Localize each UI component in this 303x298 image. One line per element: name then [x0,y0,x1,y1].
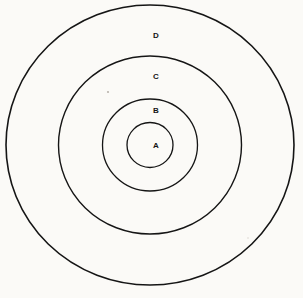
ring-label-d: D [153,31,159,40]
paper-speck [247,237,249,239]
paper-speck [107,91,109,93]
ring-label-c: C [153,72,159,81]
figure-canvas: D C B A [0,0,303,298]
paper-background [0,0,303,298]
concentric-circles-diagram: D C B A [0,0,303,298]
ring-label-a: A [153,141,159,150]
ring-label-b: B [153,106,159,115]
